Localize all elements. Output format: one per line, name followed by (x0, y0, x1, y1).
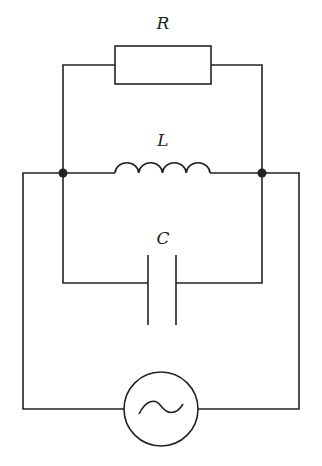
inductor-label: L (156, 130, 168, 150)
capacitor-branch: C (63, 173, 262, 325)
wire-source-right (198, 173, 299, 409)
wire-resistor-right (211, 65, 262, 173)
junction-node-left (59, 169, 68, 178)
wire-capacitor-right (176, 173, 262, 283)
wire-capacitor-left (63, 173, 148, 283)
inductor-coil-icon (115, 163, 210, 173)
wire-source-left (23, 173, 124, 409)
resistor-label: R (156, 13, 170, 33)
resistor-symbol (115, 46, 211, 84)
ac-source-symbol (124, 372, 198, 446)
sine-wave-icon (139, 401, 183, 414)
circuit-diagram: R L C (0, 0, 322, 466)
capacitor-label: C (156, 228, 169, 248)
inductor-branch: L (63, 130, 262, 173)
junction-node-right (258, 169, 267, 178)
wire-resistor-left (63, 65, 115, 173)
source-loop (23, 173, 299, 446)
